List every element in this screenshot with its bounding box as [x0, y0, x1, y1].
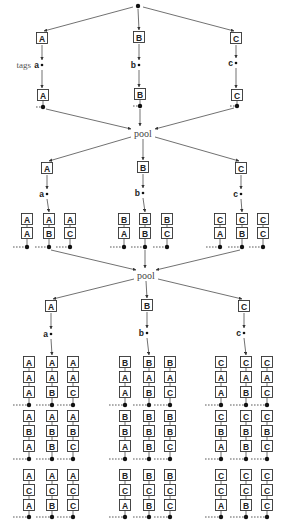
node-label: C — [26, 486, 32, 496]
stack-box: C — [215, 214, 226, 225]
stage1-top-box: A — [37, 33, 48, 44]
node-layer: AABBCCAAAABACBBABBBCCCACBCCAAAAAABAACABA… — [22, 4, 273, 519]
stack-box: B — [165, 357, 176, 368]
stack-box: C — [237, 214, 248, 225]
down-arrow — [147, 338, 149, 355]
stack-box: C — [262, 470, 273, 481]
tag-label: c — [236, 328, 241, 338]
tags-label: tags — [17, 60, 32, 70]
stack-box: C — [68, 485, 79, 496]
stack-box: B — [24, 426, 35, 437]
tag-label: c — [233, 189, 238, 199]
tag-label: a — [39, 189, 44, 199]
stack-box: B — [241, 426, 252, 437]
collect-dot — [168, 457, 172, 461]
node-label: A — [39, 34, 45, 44]
stack-box: B — [47, 387, 58, 398]
collect-dot — [168, 403, 172, 407]
stack-box: A — [24, 441, 35, 452]
stack-box: C — [68, 500, 79, 511]
stack-box: C — [258, 214, 269, 225]
stage3-top-box: C — [239, 301, 250, 312]
node-label: A — [70, 471, 76, 481]
stack-box: B — [144, 357, 155, 368]
tag-label: b — [131, 60, 136, 70]
stack-box: B — [144, 387, 155, 398]
collect-dot — [25, 245, 29, 249]
stack-box: B — [120, 411, 131, 422]
stack-box: A — [24, 411, 35, 422]
collect-dot — [123, 457, 127, 461]
stage3-top-box: A — [46, 301, 57, 312]
node-label: C — [243, 412, 249, 422]
stack-box: C — [162, 228, 173, 239]
collect-dot — [27, 403, 31, 407]
collect-dot — [27, 457, 31, 461]
stack-box: C — [24, 485, 35, 496]
tag-label: a — [34, 60, 39, 70]
tag-dot — [235, 62, 238, 65]
node-label: C — [167, 501, 173, 511]
to-pool-arrow — [51, 250, 136, 270]
node-label: B — [137, 90, 143, 100]
node-label: A — [49, 471, 55, 481]
stack-box: A — [24, 500, 35, 511]
node-label: B — [146, 388, 152, 398]
down-arrow — [244, 338, 246, 355]
node-label: C — [264, 486, 270, 496]
stack-box: C — [165, 441, 176, 452]
node-label: A — [48, 302, 54, 312]
collect-dot — [71, 403, 75, 407]
node-label: A — [26, 388, 32, 398]
stack-box: B — [241, 387, 252, 398]
collect-dot — [244, 515, 248, 519]
node-label: A — [70, 412, 76, 422]
stack-box: B — [140, 214, 151, 225]
stack-box: C — [68, 441, 79, 452]
node-label: A — [49, 412, 55, 422]
stack-box: C — [262, 387, 273, 398]
node-label: A — [217, 229, 223, 239]
node-label: A — [122, 373, 128, 383]
collect-dot — [68, 245, 72, 249]
stack-box: B — [241, 500, 252, 511]
stack-box: C — [241, 357, 252, 368]
node-label: A — [70, 373, 76, 383]
from-pool-arrow — [155, 137, 239, 161]
stack-box: A — [22, 214, 33, 225]
node-label: B — [167, 358, 173, 368]
collect-dot — [219, 457, 223, 461]
collect-dot — [219, 403, 223, 407]
node-label: B — [264, 427, 270, 437]
node-label: C — [264, 412, 270, 422]
stack-box: A — [24, 470, 35, 481]
node-label: C — [260, 215, 266, 225]
node-label: C — [238, 164, 244, 174]
node-label: C — [264, 442, 270, 452]
node-label: C — [122, 486, 128, 496]
node-label: B — [142, 229, 148, 239]
stack-box: A — [24, 357, 35, 368]
node-label: B — [49, 388, 55, 398]
pool-label-1: pool — [134, 128, 152, 139]
node-label: B — [243, 442, 249, 452]
stack-box: A — [120, 441, 131, 452]
stack-box: B — [241, 441, 252, 452]
from-pool-arrow — [49, 137, 131, 161]
tag-dot — [41, 64, 44, 67]
collect-dot — [122, 245, 126, 249]
node-label: C — [243, 486, 249, 496]
node-label: A — [26, 412, 32, 422]
node-label: A — [167, 373, 173, 383]
down-arrow — [51, 339, 52, 355]
node-label: C — [70, 486, 76, 496]
collect-dot — [50, 457, 54, 461]
collect-dot — [265, 515, 269, 519]
node-label: B — [121, 215, 127, 225]
down-arrow — [241, 199, 242, 212]
node-label: C — [243, 471, 249, 481]
stack-box: B — [165, 411, 176, 422]
stack-box: B — [144, 470, 155, 481]
stage1-top-box: C — [231, 33, 242, 44]
node-label: A — [67, 215, 73, 225]
